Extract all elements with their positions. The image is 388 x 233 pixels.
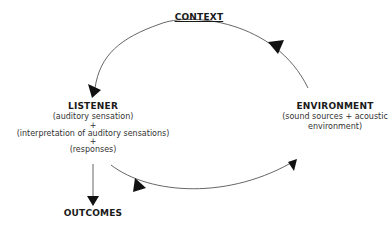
arrowhead-icon [88, 84, 101, 98]
environment-line: (sound sources + acoustic [280, 112, 388, 122]
listener-plus: + [0, 138, 186, 145]
listener-plus: + [0, 122, 186, 129]
outcomes-label: OUTCOMES [53, 208, 133, 218]
arc-environment-to-listener [95, 19, 308, 88]
arrowhead-icon [87, 196, 99, 206]
listener-title: LISTENER [0, 101, 186, 111]
environment-line: environment) [280, 122, 388, 132]
context-label: CONTEXT [173, 12, 225, 22]
environment-node: ENVIRONMENT (sound sources + acoustic en… [280, 101, 388, 131]
environment-title: ENVIRONMENT [280, 101, 388, 111]
listener-line: (responses) [0, 145, 186, 155]
listener-node: LISTENER (auditory sensation) + (interpr… [0, 101, 186, 155]
arrowhead-icon [288, 159, 297, 171]
arrowhead-icon [268, 40, 284, 54]
